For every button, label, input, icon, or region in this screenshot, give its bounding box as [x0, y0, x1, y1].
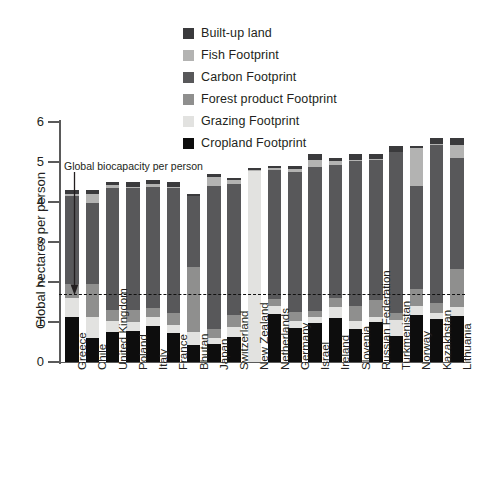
x-axis-label: Israel	[319, 342, 331, 370]
bar-ireland[interactable]	[329, 158, 342, 362]
legend-item-label: Fish Footprint	[201, 49, 279, 62]
bar-segment-carbon-footprint	[207, 186, 220, 329]
legend-item[interactable]: Built-up land	[183, 22, 337, 44]
x-axis-label: Bhutan	[198, 334, 210, 370]
x-axis-label: United Kingdom	[117, 288, 129, 370]
bar-segment-forest-product-footprint	[86, 284, 99, 318]
bar-segment-carbon-footprint	[86, 203, 99, 284]
bar-segment-carbon-footprint	[227, 184, 240, 314]
legend-item[interactable]: Carbon Footprint	[183, 66, 337, 88]
bar-segment-carbon-footprint	[308, 167, 321, 311]
legend-swatch-icon	[183, 72, 194, 83]
bar-segment-carbon-footprint	[329, 165, 342, 299]
bar-segment-grazing-footprint	[167, 325, 180, 333]
x-axis-label: Greece	[76, 332, 88, 370]
x-axis-label: Germany	[299, 323, 311, 370]
bar-segment-carbon-footprint	[288, 172, 301, 312]
legend-swatch-icon	[183, 50, 194, 61]
y-axis-tick	[48, 361, 59, 363]
y-axis-tick	[48, 161, 59, 163]
bar-segment-fish-footprint	[207, 177, 220, 186]
x-axis-label: Russian Federation	[380, 270, 392, 370]
stacked-bar-chart: Built-up landFish FootprintCarbon Footpr…	[0, 0, 478, 493]
legend-swatch-icon	[183, 28, 194, 39]
y-axis-tick-label: 5	[26, 154, 44, 169]
legend-swatch-icon	[183, 94, 194, 105]
x-axis-label: Slovenia	[360, 326, 372, 370]
bar-segment-forest-product-footprint	[146, 308, 159, 318]
x-axis-label: Norway	[420, 331, 432, 370]
y-axis-tick	[48, 241, 59, 243]
bar-segment-fish-footprint	[86, 194, 99, 203]
y-axis-tick	[48, 201, 59, 203]
y-axis-tick-label: 6	[26, 114, 44, 129]
x-axis-label: Ireland	[339, 335, 351, 370]
x-axis-label: Lithuania	[461, 323, 473, 370]
y-axis-tick-label: 4	[26, 194, 44, 209]
legend-item[interactable]: Forest product Footprint	[183, 88, 337, 110]
legend-item-label: Built-up land	[201, 27, 272, 40]
bar-segment-carbon-footprint	[430, 145, 443, 303]
bar-segment-carbon-footprint	[268, 170, 281, 299]
y-axis-tick-label: 2	[26, 274, 44, 289]
y-axis-tick	[48, 281, 59, 283]
x-axis-label: Kazakhstan	[441, 310, 453, 370]
x-axis-label: Poland	[137, 334, 149, 370]
x-axis-label: Switzerland	[238, 311, 250, 370]
bar-segment-forest-product-footprint	[329, 298, 342, 307]
bar-segment-fish-footprint	[410, 148, 423, 186]
bar-segment-grazing-footprint	[65, 298, 78, 317]
bar-segment-grazing-footprint	[146, 317, 159, 326]
bar-segment-forest-product-footprint	[349, 306, 362, 321]
y-axis-tick-label: 3	[26, 234, 44, 249]
bar-segment-forest-product-footprint	[450, 269, 463, 307]
y-axis-tick-label: 1	[26, 314, 44, 329]
y-axis-tick-label: 0	[26, 354, 44, 369]
bar-segment-carbon-footprint	[187, 196, 200, 267]
biocapacity-annotation-label: Global biocapacity per person	[64, 160, 203, 172]
bar-segment-carbon-footprint	[349, 161, 362, 306]
y-axis-tick	[48, 321, 59, 323]
x-axis-label: Chile	[96, 344, 108, 370]
x-axis-label: Japan	[218, 339, 230, 370]
x-axis-label: Netherlands	[279, 308, 291, 370]
x-axis-label: Turkmenistan	[400, 301, 412, 370]
bar-segment-built-up-land	[450, 138, 463, 145]
legend-item-label: Forest product Footprint	[201, 93, 337, 106]
y-axis-tick	[48, 121, 59, 123]
legend-item-label: Carbon Footprint	[201, 71, 296, 84]
biocapacity-arrow-icon	[70, 172, 79, 296]
x-axis-label: France	[177, 334, 189, 370]
bar-segment-grazing-footprint	[329, 307, 342, 318]
legend-item[interactable]: Fish Footprint	[183, 44, 337, 66]
x-axis-label: New Zealand	[258, 302, 270, 370]
x-axis-label: Italy	[157, 349, 169, 370]
bar-segment-forest-product-footprint	[167, 313, 180, 325]
bar-segment-carbon-footprint	[146, 187, 159, 308]
bar-segment-fish-footprint	[450, 145, 463, 159]
bar-segment-carbon-footprint	[410, 186, 423, 289]
bar-segment-forest-product-footprint	[187, 267, 200, 332]
bar-segment-carbon-footprint	[450, 158, 463, 268]
